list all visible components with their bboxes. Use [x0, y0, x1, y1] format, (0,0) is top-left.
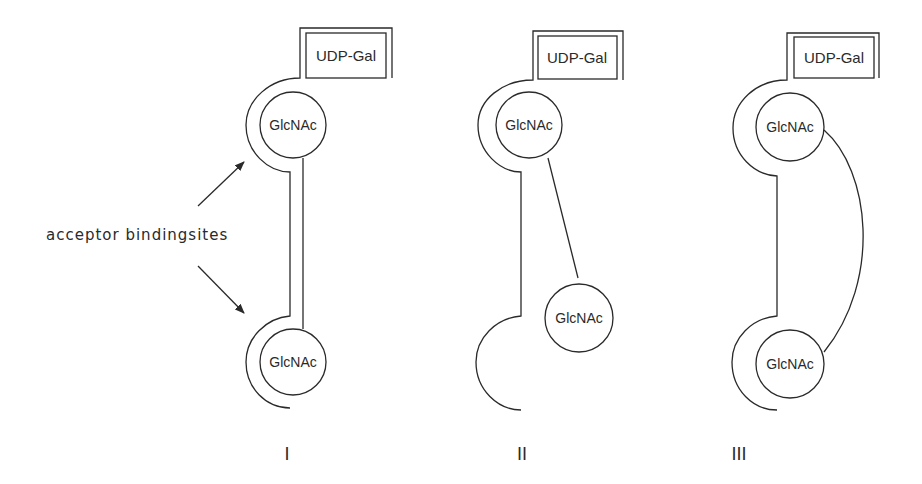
diagram-svg: acceptor bindingsites UDP-Gal GlcNAc Glc… — [0, 0, 922, 484]
panel-numeral: III — [731, 444, 746, 464]
diagram-canvas: acceptor bindingsites UDP-Gal GlcNAc Glc… — [0, 0, 922, 484]
enzyme-outline — [246, 28, 392, 408]
glcnac-bottom-label: GlcNAc — [766, 356, 813, 372]
panel-i: UDP-Gal GlcNAc GlcNAc I — [246, 28, 392, 464]
linker-diagonal — [548, 158, 578, 278]
udp-gal-label: UDP-Gal — [547, 49, 607, 66]
glcnac-top-label: GlcNAc — [269, 117, 316, 133]
arrow-down-icon — [198, 266, 244, 313]
arrow-up-icon — [198, 162, 244, 206]
enzyme-outline — [476, 31, 623, 410]
annotation-group: acceptor bindingsites — [46, 162, 244, 313]
udp-gal-label: UDP-Gal — [316, 47, 376, 64]
panel-iii: UDP-Gal GlcNAc GlcNAc III — [731, 33, 879, 464]
glcnac-top-label: GlcNAc — [766, 119, 813, 135]
panel-numeral: II — [517, 444, 527, 464]
udp-gal-label: UDP-Gal — [804, 49, 864, 66]
linker-curved — [824, 130, 863, 352]
glcnac-bottom-label: GlcNAc — [269, 354, 316, 370]
glcnac-top-label: GlcNAc — [505, 117, 552, 133]
panel-numeral: I — [284, 444, 289, 464]
panel-ii: UDP-Gal GlcNAc GlcNAc II — [476, 31, 623, 464]
glcnac-bottom-label: GlcNAc — [555, 310, 602, 326]
acceptor-bindingsites-label: acceptor bindingsites — [46, 226, 228, 244]
enzyme-outline — [732, 33, 879, 410]
